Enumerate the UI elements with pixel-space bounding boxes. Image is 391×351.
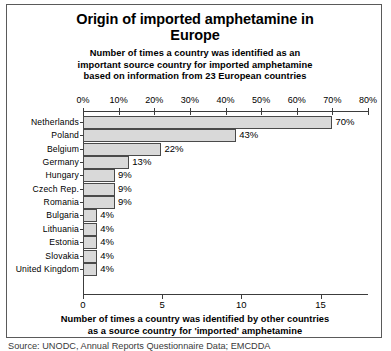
bottom-axis-line (83, 294, 368, 295)
bottom-axis-tick-label: 10 (236, 299, 247, 310)
bar-value-label: 9% (118, 195, 132, 208)
chart-title-line-1: Origin of imported amphetamine in (7, 11, 383, 27)
bottom-axis (83, 294, 368, 296)
chart-subtitle-line-1: Number of times a country was identified… (7, 48, 383, 60)
category-label: Hungary (7, 169, 79, 182)
top-axis-tick-label: 70% (323, 95, 341, 106)
bar-value-label: 4% (100, 235, 114, 248)
category-label: Germany (7, 156, 79, 169)
category-label: Bulgaria (7, 209, 79, 222)
bar (83, 156, 129, 169)
category-label: Slovakia (7, 250, 79, 263)
category-label: Belgium (7, 143, 79, 156)
top-axis-tick-label: 30% (181, 95, 199, 106)
x-axis-caption-line-2: as a source country for 'imported' amphe… (7, 326, 383, 338)
top-axis-tick-label: 20% (145, 95, 163, 106)
x-axis-caption-line-1: Number of times a country was identified… (7, 314, 383, 326)
chart-title: Origin of imported amphetamine in Europe (7, 11, 383, 43)
bottom-axis-tick-label: 5 (160, 299, 165, 310)
bottom-axis-tick-labels: 051015 (7, 299, 383, 311)
bar (83, 183, 115, 196)
bar (83, 209, 97, 222)
bar-value-label: 43% (239, 128, 258, 141)
bar-value-label: 9% (118, 168, 132, 181)
bar-row: 70% (83, 116, 368, 129)
top-axis-tick-labels: 0%10%20%30%40%50%60%70%80% (7, 95, 383, 107)
bar (83, 143, 161, 156)
top-axis-tick-label: 40% (216, 95, 234, 106)
bar-value-label: 4% (100, 262, 114, 275)
x-axis-caption: Number of times a country was identified… (7, 314, 383, 338)
source-note: Source: UNODC, Annual Reports Questionna… (8, 341, 270, 351)
top-axis-tick (368, 108, 369, 115)
bar-value-label: 4% (100, 222, 114, 235)
bar-row: 4% (83, 250, 368, 263)
chart-subtitle-line-3: based on information from 23 European co… (7, 71, 383, 83)
bar-value-label: 22% (164, 142, 183, 155)
bar-value-label: 9% (118, 182, 132, 195)
category-label: United Kingdom (7, 263, 79, 276)
bar (83, 263, 97, 276)
bar (83, 223, 97, 236)
category-axis-labels: NetherlandsPolandBelgiumGermanyHungaryCz… (7, 114, 79, 294)
top-axis-tick-label: 60% (288, 95, 306, 106)
chart-subtitle-line-2: important source country for imported am… (7, 60, 383, 72)
bar-row: 9% (83, 183, 368, 196)
plot-area: 70%43%22%13%9%9%9%4%4%4%4%4% (83, 114, 368, 294)
bar (83, 236, 97, 249)
bar (83, 169, 115, 182)
bar-row: 13% (83, 156, 368, 169)
category-label: Poland (7, 129, 79, 142)
bar (83, 196, 115, 209)
bar (83, 250, 97, 263)
top-axis-tick-label: 80% (359, 95, 377, 106)
top-axis-tick-label: 0% (76, 95, 89, 106)
bar-row: 4% (83, 236, 368, 249)
bar-row: 22% (83, 143, 368, 156)
bar-row: 4% (83, 263, 368, 276)
bottom-axis-tick-label: 15 (315, 299, 326, 310)
category-label: Estonia (7, 236, 79, 249)
bar-row: 4% (83, 223, 368, 236)
bottom-axis-tick-label: 0 (80, 299, 85, 310)
bar-row: 9% (83, 196, 368, 209)
bar-row: 43% (83, 129, 368, 142)
category-label: Czech Rep. (7, 183, 79, 196)
bar-value-label: 4% (100, 208, 114, 221)
chart-title-line-2: Europe (7, 27, 383, 43)
bar-row: 9% (83, 169, 368, 182)
bar-value-label: 4% (100, 249, 114, 262)
category-label: Lithuania (7, 223, 79, 236)
top-axis (83, 111, 368, 113)
bar (83, 129, 236, 142)
top-axis-tick-label: 50% (252, 95, 270, 106)
bar (83, 116, 332, 129)
chart-frame: Origin of imported amphetamine in Europe… (6, 4, 382, 338)
category-label: Netherlands (7, 116, 79, 129)
chart-subtitle: Number of times a country was identified… (7, 48, 383, 83)
bar-value-label: 70% (335, 115, 354, 128)
top-axis-tick-label: 10% (110, 95, 128, 106)
bar-value-label: 13% (132, 155, 151, 168)
category-label: Romania (7, 196, 79, 209)
bar-row: 4% (83, 209, 368, 222)
chart-figure: Origin of imported amphetamine in Europe… (0, 0, 391, 351)
